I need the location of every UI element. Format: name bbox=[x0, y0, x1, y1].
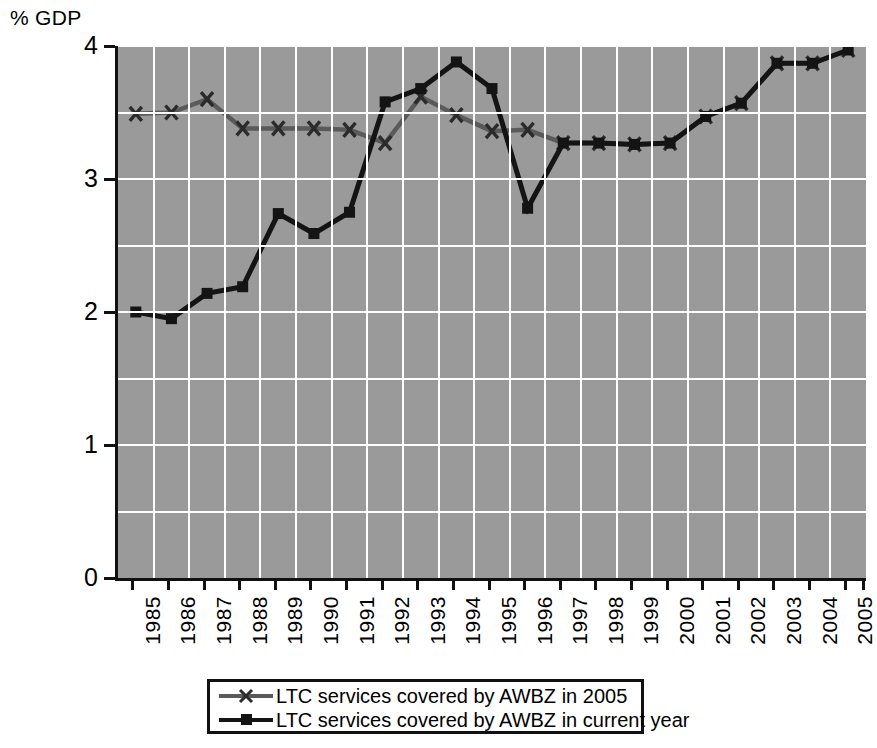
gridline-vertical bbox=[616, 46, 618, 578]
gridline-horizontal bbox=[118, 178, 866, 180]
x-axis-tick-label: 1993 bbox=[427, 596, 448, 645]
y-axis-tick-label: 1 bbox=[54, 432, 98, 457]
x-axis-tick bbox=[523, 579, 526, 590]
gridline-horizontal bbox=[118, 444, 866, 446]
x-axis-tick-label: 1988 bbox=[249, 596, 270, 645]
x-axis-tick bbox=[203, 579, 206, 590]
data-point-marker bbox=[380, 96, 391, 107]
x-axis-tick-label: 1986 bbox=[177, 596, 198, 645]
data-point-marker bbox=[166, 313, 177, 324]
x-axis-tick bbox=[594, 579, 597, 590]
chart-figure: % GDP 01234 1985198619871988198919901991… bbox=[0, 0, 877, 748]
legend: LTC services covered by AWBZ in 2005 LTC… bbox=[207, 679, 644, 734]
x-axis-tick-label: 1991 bbox=[356, 596, 377, 645]
gridline-vertical bbox=[758, 46, 760, 578]
x-axis-tick-label: 1999 bbox=[640, 596, 661, 645]
x-axis-tick bbox=[167, 579, 170, 590]
data-point-marker bbox=[736, 98, 747, 109]
y-axis-tick bbox=[104, 444, 115, 447]
x-axis-tick bbox=[488, 579, 491, 590]
x-axis-tick bbox=[630, 579, 633, 590]
x-axis-tick bbox=[309, 579, 312, 590]
gridline-vertical bbox=[366, 46, 368, 578]
gridline-vertical bbox=[331, 46, 333, 578]
legend-marker-x-icon bbox=[218, 685, 274, 707]
gridline-vertical bbox=[188, 46, 190, 578]
y-axis-tick bbox=[104, 178, 115, 181]
gridline-vertical bbox=[224, 46, 226, 578]
y-axis-tick-label: 3 bbox=[54, 166, 98, 191]
x-axis-tick bbox=[274, 579, 277, 590]
x-axis-tick bbox=[808, 579, 811, 590]
data-point-marker bbox=[522, 203, 533, 214]
gridline-vertical bbox=[829, 46, 831, 578]
data-point-marker bbox=[771, 58, 782, 69]
data-point-marker bbox=[665, 138, 676, 149]
gridline-horizontal bbox=[118, 511, 866, 513]
gridline-vertical bbox=[473, 46, 475, 578]
data-point-marker bbox=[237, 281, 248, 292]
y-axis-tick-label: 4 bbox=[54, 33, 98, 58]
series-current-year bbox=[130, 46, 853, 324]
data-point-marker bbox=[629, 139, 640, 150]
x-axis-tick-label: 1996 bbox=[534, 596, 555, 645]
data-point-marker bbox=[308, 228, 319, 239]
y-axis-labels: 01234 bbox=[42, 0, 98, 748]
gridline-vertical bbox=[295, 46, 297, 578]
x-axis-tick-label: 1985 bbox=[142, 596, 163, 645]
y-axis-tick bbox=[104, 577, 115, 580]
legend-item-0: LTC services covered by AWBZ in 2005 bbox=[218, 683, 627, 708]
legend-item-1: LTC services covered by AWBZ in current … bbox=[218, 707, 689, 732]
data-point-marker bbox=[843, 46, 854, 55]
x-axis-tick bbox=[701, 579, 704, 590]
data-point-marker bbox=[344, 207, 355, 218]
data-point-marker bbox=[487, 83, 498, 94]
x-axis-tick bbox=[862, 579, 865, 590]
gridline-vertical bbox=[259, 46, 261, 578]
x-axis-tick bbox=[452, 579, 455, 590]
x-axis-tick-label: 1992 bbox=[391, 596, 412, 645]
data-point-marker bbox=[558, 138, 569, 149]
gridline-vertical bbox=[509, 46, 511, 578]
x-axis-tick bbox=[737, 579, 740, 590]
x-axis-tick bbox=[345, 579, 348, 590]
gridline-vertical bbox=[438, 46, 440, 578]
x-axis-tick bbox=[381, 579, 384, 590]
data-point-marker bbox=[202, 288, 213, 299]
gridline-vertical bbox=[402, 46, 404, 578]
x-axis-tick-label: 1987 bbox=[213, 596, 234, 645]
x-axis-tick-label: 1995 bbox=[498, 596, 519, 645]
plot-inner bbox=[118, 46, 866, 578]
x-axis-tick-label: 2000 bbox=[676, 596, 697, 645]
y-axis-tick bbox=[104, 311, 115, 314]
y-axis-tick-label: 0 bbox=[54, 565, 98, 590]
x-axis-tick-label: 2002 bbox=[747, 596, 768, 645]
x-axis-tick-label: 1990 bbox=[320, 596, 341, 645]
gridline-vertical bbox=[580, 46, 582, 578]
x-axis-tick-label: 2003 bbox=[783, 596, 804, 645]
gridline-vertical bbox=[544, 46, 546, 578]
data-point-marker bbox=[415, 83, 426, 94]
legend-marker-square-icon bbox=[218, 709, 274, 731]
gridline-horizontal bbox=[118, 311, 866, 313]
x-axis-tick bbox=[416, 579, 419, 590]
x-axis-tick bbox=[131, 579, 134, 590]
gridline-vertical bbox=[723, 46, 725, 578]
gridline-vertical bbox=[153, 46, 155, 578]
gridline-horizontal bbox=[118, 245, 866, 247]
x-axis-tick bbox=[844, 579, 847, 590]
plot-area bbox=[115, 46, 866, 581]
gridline-vertical bbox=[687, 46, 689, 578]
x-axis-tick bbox=[559, 579, 562, 590]
x-axis-tick-label: 2005 bbox=[854, 596, 875, 645]
x-axis-tick-label: 1997 bbox=[569, 596, 590, 645]
x-axis-tick bbox=[666, 579, 669, 590]
x-axis-tick-label: 2001 bbox=[712, 596, 733, 645]
data-point-marker bbox=[451, 56, 462, 67]
x-axis-tick bbox=[238, 579, 241, 590]
x-axis-tick-label: 2004 bbox=[819, 596, 840, 645]
data-point-marker bbox=[807, 58, 818, 69]
y-axis-tick-label: 2 bbox=[54, 299, 98, 324]
gridline-horizontal bbox=[118, 46, 866, 47]
x-axis-tick bbox=[772, 579, 775, 590]
